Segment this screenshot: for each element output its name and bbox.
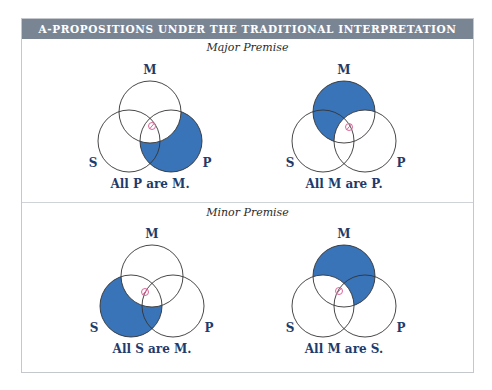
label-p: P (202, 156, 211, 170)
venn-diagrams: M S P All P are M. M S P All M are P. M … (0, 0, 492, 390)
caption: All M are S. (304, 342, 383, 356)
caption: All P are M. (109, 177, 189, 191)
caption: All S are M. (112, 342, 192, 356)
label-p: P (396, 321, 405, 335)
venn-all-m-are-s: M S P All M are S. (286, 227, 406, 356)
label-m: M (143, 63, 156, 77)
label-s: S (286, 321, 295, 335)
venn-all-m-are-p: M S P All M are P. (286, 63, 406, 191)
label-s: S (90, 321, 99, 335)
label-s: S (89, 156, 98, 170)
caption: All M are P. (304, 177, 382, 191)
venn-all-s-are-m: M S P All S are M. (90, 227, 214, 356)
label-m: M (337, 63, 350, 77)
label-p: P (396, 156, 405, 170)
label-s: S (286, 156, 295, 170)
venn-all-p-are-m: M S P All P are M. (89, 63, 212, 191)
label-m: M (145, 227, 158, 241)
label-p: P (204, 321, 213, 335)
label-m: M (337, 227, 350, 241)
